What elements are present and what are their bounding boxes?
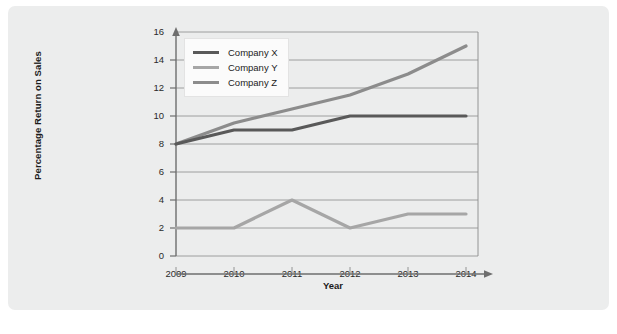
legend-swatch-company-z xyxy=(193,81,219,85)
legend-label-company-x: Company X xyxy=(228,47,278,58)
chart-legend: Company X Company Y Company Z xyxy=(184,38,289,97)
chart-panel: Percentage Return on Sales Year 16 14 12… xyxy=(8,6,609,310)
chart-area: Percentage Return on Sales Year 16 14 12… xyxy=(8,6,609,310)
legend-swatch-company-x xyxy=(193,51,219,55)
legend-label-company-z: Company Z xyxy=(228,77,277,88)
legend-item-company-y: Company Y xyxy=(193,60,278,75)
y-axis-ticks xyxy=(170,60,176,256)
y-axis-arrow xyxy=(172,27,180,36)
series-line-company-y xyxy=(176,200,466,228)
x-axis-arrow xyxy=(484,270,493,278)
x-axis-ticks xyxy=(176,267,466,274)
plot-svg xyxy=(8,6,609,310)
legend-swatch-company-y xyxy=(193,66,219,70)
series-line-company-x xyxy=(176,116,466,144)
legend-item-company-z: Company Z xyxy=(193,75,278,90)
legend-label-company-y: Company Y xyxy=(228,62,277,73)
legend-item-company-x: Company X xyxy=(193,45,278,60)
